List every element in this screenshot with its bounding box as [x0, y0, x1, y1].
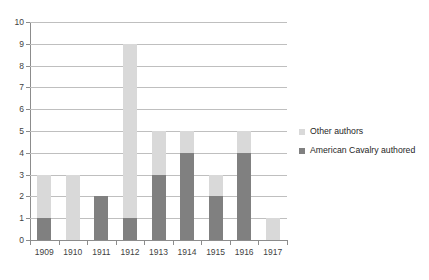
- y-axis-tick-label: 10: [2, 18, 24, 27]
- bar-segment-other-authors[interactable]: [237, 131, 251, 153]
- plot-area: [30, 22, 287, 240]
- gridline: [30, 66, 287, 67]
- bar-segment-american-cavalry-authored[interactable]: [123, 218, 137, 240]
- legend-item[interactable]: American Cavalry authored: [299, 143, 427, 158]
- x-axis-tick-mark: [230, 241, 231, 245]
- bar-segment-other-authors[interactable]: [66, 175, 80, 240]
- bar-segment-american-cavalry-authored[interactable]: [237, 153, 251, 240]
- y-axis-tick-label: 5: [2, 127, 24, 136]
- bar-segment-american-cavalry-authored[interactable]: [180, 153, 194, 240]
- x-axis-tick-label: 1912: [115, 248, 145, 257]
- x-axis-tick-label: 1914: [172, 248, 202, 257]
- x-axis-tick-mark: [173, 241, 174, 245]
- gridline: [30, 44, 287, 45]
- y-axis-tick-mark: [26, 131, 30, 132]
- x-axis-tick-label: 1909: [29, 248, 59, 257]
- y-axis-tick-label: 4: [2, 149, 24, 158]
- x-axis-tick-mark: [201, 241, 202, 245]
- bar-segment-other-authors[interactable]: [37, 175, 51, 219]
- x-axis-tick-label: 1916: [229, 248, 259, 257]
- bar-segment-other-authors[interactable]: [123, 44, 137, 218]
- bar-stack[interactable]: [180, 131, 194, 240]
- bar-stack[interactable]: [237, 131, 251, 240]
- gridline: [30, 87, 287, 88]
- bar-segment-other-authors[interactable]: [266, 218, 280, 240]
- bar-segment-other-authors[interactable]: [180, 131, 194, 153]
- legend-item[interactable]: Other authors: [299, 124, 427, 139]
- bar-stack[interactable]: [152, 131, 166, 240]
- y-axis-tick-mark: [26, 22, 30, 23]
- y-axis-tick-mark: [26, 175, 30, 176]
- y-axis-tick-mark: [26, 196, 30, 197]
- legend-swatch-dark-icon: [299, 148, 305, 154]
- x-axis-line: [30, 240, 288, 241]
- x-axis-tick-label: 1913: [144, 248, 174, 257]
- legend-item-label: American Cavalry authored: [310, 146, 415, 155]
- y-axis-tick-mark: [26, 218, 30, 219]
- bar-stack[interactable]: [209, 175, 223, 240]
- y-axis-tick-label: 6: [2, 105, 24, 114]
- bar-segment-american-cavalry-authored[interactable]: [209, 196, 223, 240]
- gridline: [30, 109, 287, 110]
- y-axis-tick-mark: [26, 44, 30, 45]
- y-axis-tick-label: 2: [2, 192, 24, 201]
- y-axis-tick-label: 7: [2, 83, 24, 92]
- x-axis-tick-mark: [287, 241, 288, 245]
- y-axis-tick-label: 1: [2, 214, 24, 223]
- bar-stack[interactable]: [37, 175, 51, 240]
- bar-stack[interactable]: [123, 44, 137, 240]
- x-axis-tick-mark: [116, 241, 117, 245]
- x-axis-tick-label: 1915: [201, 248, 231, 257]
- bar-segment-other-authors[interactable]: [209, 175, 223, 197]
- bar-segment-american-cavalry-authored[interactable]: [94, 196, 108, 240]
- chart-legend: Other authorsAmerican Cavalry authored: [299, 124, 427, 162]
- x-axis-tick-label: 1917: [258, 248, 288, 257]
- bar-stack[interactable]: [94, 196, 108, 240]
- bar-stack[interactable]: [266, 218, 280, 240]
- y-axis-tick-mark: [26, 66, 30, 67]
- legend-swatch-light-icon: [299, 129, 305, 135]
- bar-stack[interactable]: [66, 175, 80, 240]
- chart-figure: 012345678910 Other authorsAmerican Caval…: [0, 0, 429, 280]
- x-axis-tick-label: 1911: [86, 248, 116, 257]
- x-axis-tick-mark: [59, 241, 60, 245]
- bar-segment-american-cavalry-authored[interactable]: [37, 218, 51, 240]
- y-axis-tick-label: 9: [2, 40, 24, 49]
- y-axis-tick-label: 3: [2, 171, 24, 180]
- y-axis-tick-mark: [26, 153, 30, 154]
- y-axis-tick-mark: [26, 109, 30, 110]
- bar-segment-american-cavalry-authored[interactable]: [152, 175, 166, 240]
- y-axis-tick-label: 0: [2, 236, 24, 245]
- x-axis-tick-label: 1910: [58, 248, 88, 257]
- x-axis-tick-mark: [30, 241, 31, 245]
- bar-segment-other-authors[interactable]: [152, 131, 166, 175]
- x-axis-tick-mark: [87, 241, 88, 245]
- y-axis-tick-mark: [26, 87, 30, 88]
- legend-item-label: Other authors: [310, 127, 363, 136]
- y-axis-labels: 012345678910: [0, 0, 24, 280]
- y-axis-tick-label: 8: [2, 62, 24, 71]
- x-axis-tick-mark: [144, 241, 145, 245]
- x-axis-tick-mark: [258, 241, 259, 245]
- gridline: [30, 22, 287, 23]
